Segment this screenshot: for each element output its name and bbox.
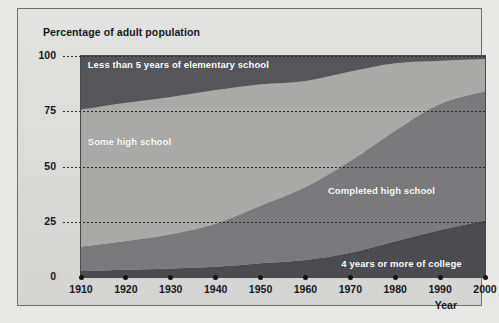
x-tick-marker — [438, 275, 443, 280]
plot-area — [81, 56, 485, 277]
series-annotation: Completed high school — [328, 185, 435, 196]
y-tick-label: 0 — [26, 270, 56, 282]
y-tick-label: 100 — [26, 49, 56, 61]
stacked-area-svg — [81, 56, 485, 277]
x-tick-label: 2000 — [465, 283, 499, 295]
x-tick-label: 1920 — [106, 283, 146, 295]
chart-card: Percentage of adult population 025507510… — [17, 8, 482, 306]
series-annotation: Some high school — [88, 136, 171, 147]
x-tick-marker — [393, 275, 398, 280]
x-tick-label: 1960 — [285, 283, 325, 295]
x-tick-label: 1930 — [151, 283, 191, 295]
series-annotation: 4 years or more of college — [341, 258, 461, 269]
x-tick-marker — [348, 275, 353, 280]
series-annotation: Less than 5 years of elementary school — [88, 59, 269, 70]
y-tick-label: 75 — [26, 104, 56, 116]
x-tick-label: 1970 — [330, 283, 370, 295]
x-tick-marker — [303, 275, 308, 280]
x-tick-marker — [483, 275, 488, 280]
x-tick-label: 1950 — [241, 283, 281, 295]
x-tick-label: 1990 — [420, 283, 460, 295]
x-tick-label: 1910 — [61, 283, 101, 295]
x-tick-label: 1940 — [196, 283, 236, 295]
x-tick-label: 1980 — [375, 283, 415, 295]
x-tick-marker — [79, 275, 84, 280]
page-title: Percentage of adult population — [43, 26, 200, 38]
x-axis-title: Year — [435, 299, 457, 311]
y-tick-label: 50 — [26, 160, 56, 172]
figure-canvas: Percentage of adult population 025507510… — [0, 0, 499, 323]
y-tick-label: 25 — [26, 215, 56, 227]
